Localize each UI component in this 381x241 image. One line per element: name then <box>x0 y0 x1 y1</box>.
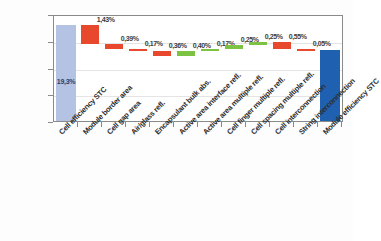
x-tick-mark <box>149 122 150 127</box>
x-tick-mark <box>77 122 78 127</box>
x-tick-mark <box>197 122 198 127</box>
bar-cell-gap-area <box>105 44 122 49</box>
bar-active-area-interface-refl <box>177 51 194 56</box>
x-tick-mark <box>293 122 294 127</box>
bar-value-label: 19,3% <box>56 78 75 85</box>
bar-active-area-multiple-refl <box>201 49 218 51</box>
x-tick-mark <box>269 122 270 127</box>
bar-delta-label: 0,17% <box>145 40 163 47</box>
x-tick-mark <box>101 122 102 127</box>
plot-area: 19,3%1,43%0,39%0,17%0,36%0,40%0,17%0,25%… <box>53 15 343 122</box>
gridline <box>54 70 342 71</box>
bar-delta-label: 1,43% <box>97 16 115 23</box>
bar-encapsulant-bulk-abs <box>153 51 170 56</box>
bar-air-glass-refl <box>129 49 146 51</box>
bar-delta-label: 0,55% <box>289 33 307 40</box>
bar-string-interconnection <box>297 49 314 51</box>
bar-module-efficiency-stc: 17,4% <box>320 50 339 121</box>
x-tick-mark <box>125 122 126 127</box>
bar-delta-label: 0,05% <box>313 40 331 47</box>
y-tick-mark <box>48 122 53 123</box>
x-tick-mark <box>245 122 246 127</box>
bar-delta-label: 0,39% <box>121 35 139 42</box>
bar-delta-label: 0,25% <box>265 33 283 40</box>
bar-delta-label: 0,36% <box>169 42 187 49</box>
bar-cell-finger-multiple-refl <box>225 45 242 48</box>
bar-cell-interconnection <box>273 42 290 49</box>
gridline <box>54 96 342 97</box>
x-tick-mark <box>317 122 318 127</box>
bar-cell-efficiency-stc: 19,3% <box>56 25 75 121</box>
bar-value-label: 17,4% <box>320 128 339 135</box>
bar-module-border-area <box>81 25 98 44</box>
x-tick-mark <box>173 122 174 127</box>
bar-cell-spacing-multiple-refl <box>249 42 266 45</box>
x-tick-mark <box>221 122 222 127</box>
x-tick-mark <box>341 122 342 127</box>
